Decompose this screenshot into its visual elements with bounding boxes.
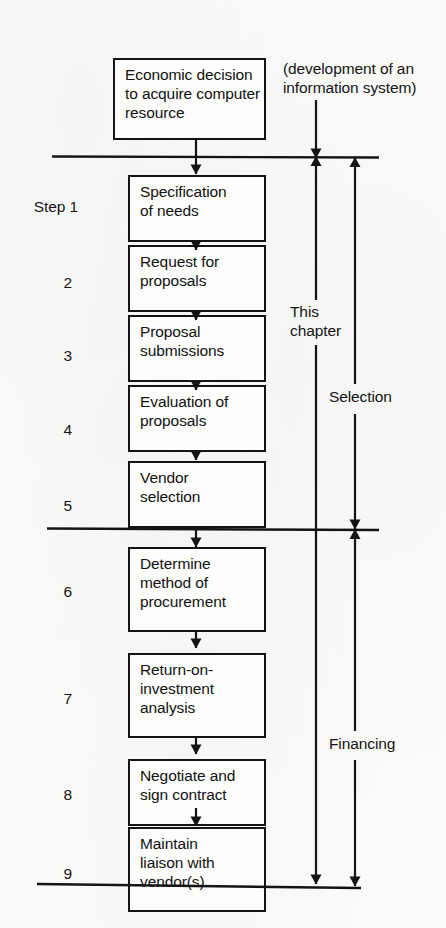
rule-top bbox=[52, 157, 379, 158]
flowchart-page: Economic decision to acquire computer re… bbox=[0, 0, 446, 928]
rule-bottom bbox=[37, 884, 361, 888]
rule-middle bbox=[47, 529, 379, 531]
flowchart-canvas bbox=[0, 0, 446, 928]
